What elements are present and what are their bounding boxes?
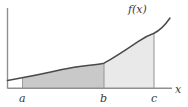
figure-canvas: [0, 0, 188, 107]
integral-area-figure: f(x) x a b c: [0, 0, 188, 107]
tick-label-b: b: [100, 93, 107, 104]
function-label: f(x): [128, 4, 147, 15]
tick-label-c: c: [151, 93, 157, 104]
tick-label-a: a: [19, 93, 26, 104]
shaded-region-b-to-c: [104, 33, 154, 88]
x-axis-label: x: [175, 84, 181, 95]
